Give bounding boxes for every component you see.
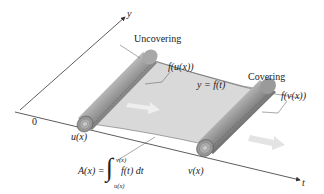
covering-label: Covering <box>248 72 285 82</box>
integrand: f(t) dt <box>121 165 144 176</box>
y-axis-label: y <box>127 9 131 19</box>
uncovering-label: Uncovering <box>134 34 181 44</box>
leader-f-v <box>262 101 287 113</box>
curve-label: y = f(t) <box>197 80 225 90</box>
formula-lhs: A(x) = <box>78 165 104 176</box>
leader-uncovering <box>120 45 140 58</box>
t-axis-label: t <box>302 178 305 188</box>
integral-sign-icon: ∫ <box>106 155 113 181</box>
lower-limit: u(x) <box>114 182 124 189</box>
u-label: u(x) <box>71 132 87 142</box>
accumulation-diagram <box>0 0 324 194</box>
direction-arrow-icon <box>248 135 285 150</box>
origin-label: 0 <box>32 117 37 127</box>
upper-limit: v(x) <box>116 156 126 163</box>
f-u-label: f(u(x)) <box>168 62 194 72</box>
v-label: v(x) <box>188 166 204 176</box>
f-v-label: f(v(x)) <box>281 91 306 101</box>
